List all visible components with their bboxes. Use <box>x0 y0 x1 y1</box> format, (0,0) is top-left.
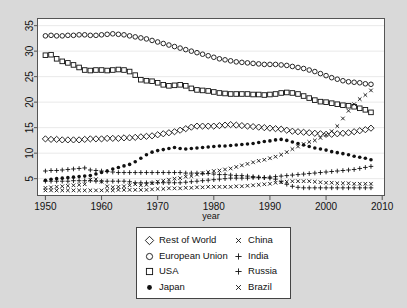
data-point <box>363 81 368 86</box>
data-point <box>128 183 132 187</box>
data-point <box>257 159 261 163</box>
legend-item-rest-of-world[interactable]: Rest of World <box>143 232 232 247</box>
data-point <box>139 180 144 185</box>
data-point <box>284 182 289 187</box>
series-rest-of-world <box>42 121 374 143</box>
data-point <box>155 40 160 45</box>
data-point <box>71 33 76 38</box>
data-point <box>329 75 334 80</box>
data-point <box>139 170 144 175</box>
y-tick-label: 35 <box>24 20 35 32</box>
data-point <box>201 146 205 150</box>
data-point <box>290 184 295 189</box>
data-point <box>301 66 306 71</box>
data-point <box>234 165 238 169</box>
data-point <box>206 89 211 94</box>
data-point <box>144 180 149 185</box>
data-point <box>284 173 289 178</box>
data-point <box>250 124 256 130</box>
data-point <box>128 188 132 192</box>
data-point <box>161 180 166 185</box>
data-point <box>234 92 239 97</box>
data-point <box>346 168 351 173</box>
legend-item-brazil[interactable]: Brazil <box>232 279 284 294</box>
data-point <box>364 156 368 160</box>
data-point <box>319 180 323 184</box>
data-point <box>263 182 267 186</box>
data-point <box>229 144 233 148</box>
legend-label: Brazil <box>248 280 272 293</box>
legend-column-right: ChinaIndiaRussiaBrazil <box>232 232 284 294</box>
data-point <box>127 34 132 39</box>
data-point <box>172 83 177 88</box>
data-point <box>234 60 239 65</box>
legend-item-japan[interactable]: Japan <box>143 279 232 294</box>
data-point <box>352 167 357 172</box>
data-point <box>319 147 323 151</box>
data-point <box>66 179 71 184</box>
series-usa <box>43 52 373 114</box>
data-point <box>49 168 54 173</box>
data-point <box>352 182 356 186</box>
gridlines <box>38 26 384 179</box>
data-point <box>99 68 104 73</box>
x-tick-label: 2010 <box>371 201 394 212</box>
data-point <box>66 176 70 180</box>
data-point <box>178 176 182 180</box>
data-point <box>279 91 284 96</box>
data-point <box>251 142 255 146</box>
data-point <box>167 187 171 191</box>
data-point <box>345 130 351 136</box>
legend-item-russia[interactable]: Russia <box>232 263 284 278</box>
legend-item-usa[interactable]: USA <box>143 263 232 278</box>
data-point <box>273 62 278 67</box>
data-point <box>82 136 88 142</box>
data-point <box>54 34 59 39</box>
data-point <box>195 88 200 93</box>
data-point <box>173 146 177 150</box>
y-tick-label: 20 <box>25 96 36 108</box>
data-point <box>171 129 177 135</box>
data-point <box>330 181 334 185</box>
data-point <box>212 177 217 182</box>
data-point <box>240 185 244 189</box>
data-point <box>172 44 177 49</box>
data-point <box>150 150 154 154</box>
data-point <box>307 186 312 191</box>
data-point <box>217 91 222 96</box>
data-point <box>54 179 59 184</box>
data-point <box>217 57 222 62</box>
data-point <box>89 174 93 178</box>
legend-label: Russia <box>248 264 277 277</box>
data-point <box>313 186 318 191</box>
data-point <box>172 180 177 185</box>
data-point <box>256 92 261 97</box>
data-point <box>240 143 244 147</box>
data-point <box>72 175 76 179</box>
data-point <box>178 180 183 185</box>
data-point <box>89 189 93 193</box>
data-point <box>146 269 152 275</box>
data-point <box>127 69 132 74</box>
legend-label: India <box>248 249 269 262</box>
data-point <box>206 145 210 149</box>
data-point <box>307 145 311 149</box>
data-point <box>341 103 346 108</box>
data-point <box>369 89 373 93</box>
legend-item-european-union[interactable]: European Union <box>143 248 232 263</box>
data-point <box>268 92 273 97</box>
data-point <box>218 169 222 173</box>
data-point <box>146 253 152 259</box>
data-point <box>313 146 317 150</box>
data-point <box>60 185 64 189</box>
data-point <box>43 53 48 58</box>
legend-item-china[interactable]: China <box>232 232 284 247</box>
data-point <box>190 147 194 151</box>
data-point <box>347 181 351 185</box>
data-point <box>145 236 153 244</box>
data-point <box>279 138 283 142</box>
data-point <box>274 138 278 142</box>
legend-item-india[interactable]: India <box>232 248 284 263</box>
data-point <box>352 104 357 109</box>
data-point <box>296 92 301 97</box>
